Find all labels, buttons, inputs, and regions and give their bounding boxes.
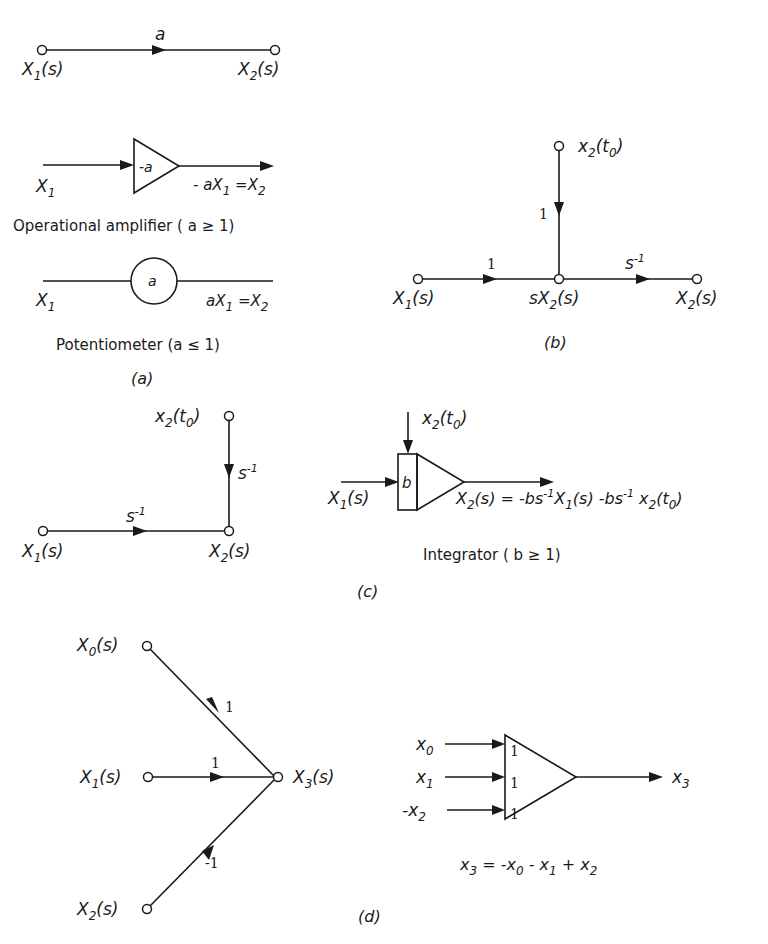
node-x2-t0 [225,412,234,421]
arrow-right-icon [483,274,497,284]
arrow-right-icon [492,772,505,782]
node-label-x2-t0: x2(t0) [577,136,623,160]
node-x2 [225,527,234,536]
vertical-gain: 1 [539,206,548,222]
arrow-down-icon [554,202,564,216]
integrator-input-label: X1(s) [327,488,369,512]
potentiometer-description: Potentiometer (a ≤ 1) [56,336,220,354]
arrow-right-icon [636,274,650,284]
flow-graph-c: x2(t0) s-1 s-1 X1(s) X2(s) [21,406,258,565]
signal-flow-figure: a X1(s) X2(s) -a X1 - aX1 =X2 Operationa… [0,0,768,944]
node-x0 [143,642,152,651]
gain-x1: 1 [211,755,220,771]
arrow-right-icon [120,160,134,170]
panel-a: a X1(s) X2(s) -a X1 - aX1 =X2 Operationa… [13,24,280,388]
node-x2 [693,275,702,284]
flow-graph-d: X0(s) X1(s) X2(s) X3(s) 1 1 -1 [76,635,334,923]
summer-output-x3: x3 [671,767,690,791]
weight-x0: 1 [510,743,519,759]
arrow-right-icon [260,161,274,171]
weight-x2: 1 [510,806,519,822]
panel-b: x2(t0) 1 1 s-1 X1(s) sX2(s) X2(s) (b) [392,136,717,352]
arrow-right-icon [492,805,505,815]
arrow-right-icon [152,45,166,55]
arrow-down-icon [224,464,234,478]
node-x2 [143,905,152,914]
node-label-x0: X0(s) [76,635,118,659]
summer-equation: x3 = -x0 - x1 + x2 [459,855,597,878]
potentiometer-gain: a [148,273,157,289]
vertical-gain: s-1 [238,462,258,483]
branch-gain-label: a [155,24,165,44]
output-gain: s-1 [625,252,645,273]
node-sx2 [555,275,564,284]
potentiometer: a X1 aX1 =X2 Potentiometer (a ≤ 1) [35,258,273,354]
horizontal-gain: s-1 [126,505,146,526]
node-label-x1: X1(s) [21,59,63,83]
node-x3 [274,773,283,782]
input-gain: 1 [487,256,496,272]
amplifier-output-expr: - aX1 =X2 [193,176,266,198]
potentiometer-input-label: X1 [35,290,55,314]
node-label-x2: X2(s) [76,899,118,923]
operational-amplifier: -a X1 - aX1 =X2 Operational amplifier ( … [13,139,274,235]
node-label-x1: X1(s) [392,288,434,312]
integrator: b x2(t0) X1(s) X2(s) = -bs-1X1(s) -bs-1 … [327,408,683,564]
node-label-x2: X2(s) [208,541,250,565]
panel-d: X0(s) X1(s) X2(s) X3(s) 1 1 -1 1 1 1 x0 … [76,635,690,926]
panel-c: x2(t0) s-1 s-1 X1(s) X2(s) b x2(t0) X1(s… [21,406,683,601]
amplifier-input-label: X1 [35,176,55,200]
node-x1 [144,773,153,782]
arrow-right-icon [649,772,663,782]
node-label-x1: X1(s) [79,767,121,791]
node-x1 [39,527,48,536]
caption-d: (d) [358,907,381,926]
amplifier-gain: -a [139,159,153,175]
arrow-right-icon [210,772,224,782]
integrator-description: Integrator ( b ≥ 1) [423,546,561,564]
integrator-initial-label: x2(t0) [421,408,467,432]
gain-x0: 1 [225,699,234,715]
integrator-equation: X2(s) = -bs-1X1(s) -bs-1 x2(t0) [455,487,683,512]
caption-b: (b) [544,333,567,352]
caption-c: (c) [357,582,378,601]
node-x1 [38,46,47,55]
summing-amplifier: 1 1 1 x0 x1 -x2 x3 x3 = -x0 - x1 + x2 [402,734,690,878]
summer-input-x1: x1 [415,767,434,791]
node-label-x1: X1(s) [21,541,63,565]
weight-x1: 1 [510,775,519,791]
node-x2 [271,46,280,55]
node-label-x3: X3(s) [292,767,334,791]
arrow-right-icon [133,526,147,536]
arrow-right-icon [385,477,399,487]
caption-a: (a) [131,369,153,388]
node-label-x2: X2(s) [237,59,279,83]
gain-x2: -1 [205,855,219,871]
amplifier-description: Operational amplifier ( a ≥ 1) [13,217,234,235]
arrow-right-icon [540,477,554,487]
summer-input-x2: -x2 [402,800,426,824]
node-x1 [414,275,423,284]
summer-input-x0: x0 [415,734,434,758]
arrow-diagonal-down-icon [206,697,219,713]
node-label-sx2: sX2(s) [529,288,579,312]
node-label-x2-t0: x2(t0) [154,406,200,430]
node-x2-t0 [555,142,564,151]
branch-gain-a: a X1(s) X2(s) [21,24,280,83]
arrow-right-icon [492,739,505,749]
arrow-down-icon [403,440,413,454]
potentiometer-output-expr: aX1 =X2 [206,292,268,314]
integrator-gain: b [402,474,412,492]
node-label-x2: X2(s) [675,288,717,312]
